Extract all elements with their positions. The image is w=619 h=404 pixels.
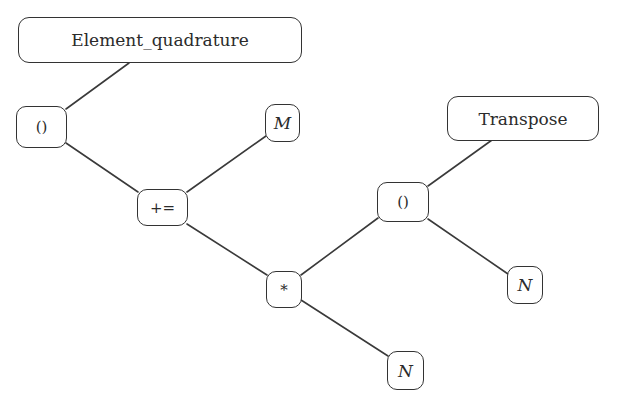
node-call-operator-1: () (16, 106, 67, 148)
node-element-quadrature: Element_quadrature (18, 17, 302, 63)
edge-transpose-to-call (428, 140, 492, 186)
node-variable-n-bottom: N (387, 351, 424, 390)
node-variable-m: M (265, 104, 300, 142)
edge-multiply-to-call (301, 218, 378, 275)
node-variable-n-right: N (507, 266, 543, 304)
node-plus-assign-operator: += (137, 189, 188, 226)
node-multiply-operator: * (266, 271, 302, 308)
edge-element-quadrature-to-call (66, 63, 129, 109)
node-transpose: Transpose (447, 96, 599, 141)
edge-plus-assign-to-multiply (187, 224, 267, 275)
edge-multiply-to-n-bottom (301, 300, 388, 356)
node-call-operator-2: () (377, 182, 429, 222)
expression-tree-diagram: Element_quadrature () M += Transpose () … (0, 0, 619, 404)
edge-call-to-n-right (428, 219, 508, 274)
edge-m-to-plus-assign (187, 136, 266, 192)
edge-call-to-plus-assign (66, 143, 138, 192)
